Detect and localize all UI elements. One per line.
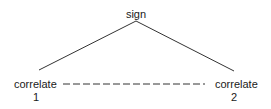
- right-node-label: correlate: [215, 78, 258, 90]
- edge-sign-to-correlate-2: [136, 21, 234, 71]
- right-node-index: 2: [231, 91, 237, 103]
- left-node-label: correlate: [14, 78, 57, 90]
- edge-sign-to-correlate-1: [39, 21, 136, 70]
- left-node-index: 1: [33, 91, 39, 103]
- apex-label: sign: [126, 8, 146, 20]
